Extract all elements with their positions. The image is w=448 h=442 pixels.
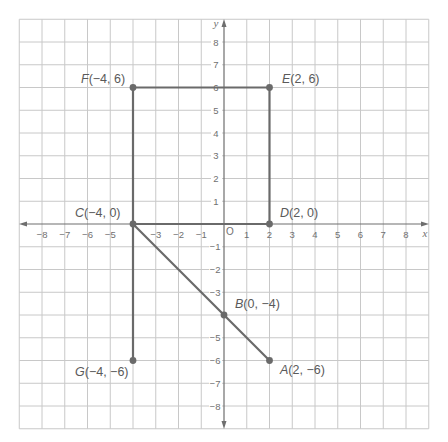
y-axis-up-arrow-icon: [222, 19, 227, 27]
point-G: [130, 357, 137, 364]
point-B: [221, 312, 228, 319]
x-tick-label: 6: [358, 229, 363, 240]
y-tick-label: 2: [213, 173, 218, 184]
y-tick-label: −7: [210, 378, 221, 389]
y-tick-label: −8: [210, 401, 221, 412]
label-D: D(2, 0): [280, 206, 318, 220]
point-labels: F(−4, 6) E(2, 6) C(−4, 0) D(2, 0) B(0, −…: [75, 72, 325, 379]
y-tick-label: −3: [210, 287, 221, 298]
y-tick-label: −6: [210, 355, 221, 366]
origin-label: O: [226, 226, 234, 237]
x-tick-label: 7: [381, 229, 386, 240]
x-tick-label: −3: [150, 229, 161, 240]
label-F: F(−4, 6): [81, 72, 125, 86]
x-tick-label: −6: [82, 229, 93, 240]
y-tick-label: 3: [213, 150, 218, 161]
y-axis-down-arrow-icon: [222, 421, 227, 429]
point-F: [130, 84, 137, 91]
y-tick-label: 4: [213, 128, 218, 139]
y-tick-label: −5: [210, 332, 221, 343]
label-B: B(0, −4): [235, 297, 280, 311]
x-tick-label: 4: [312, 229, 317, 240]
point-A: [266, 357, 273, 364]
x-tick-label: −8: [37, 229, 48, 240]
y-tick-label: 8: [213, 37, 218, 48]
label-G: G(−4, −6): [75, 365, 129, 379]
label-C: C(−4, 0): [75, 206, 121, 220]
x-axis-label: x: [422, 227, 428, 239]
x-tick-label: 8: [403, 229, 408, 240]
y-axis-label: y: [213, 17, 219, 29]
y-tick-label: 7: [213, 59, 218, 70]
label-A: A(2, −6): [279, 363, 325, 377]
x-axis-left-arrow-icon: [19, 222, 27, 227]
coordinate-plane-figure: −8 −7 −6 −5 −3 −2 −1 1 2 3 4 5 6 7 8 x O…: [0, 0, 448, 442]
x-axis-right-arrow-icon: [421, 222, 429, 227]
x-tick-label: 3: [290, 229, 295, 240]
y-tick-label: 5: [213, 105, 218, 116]
coordinate-plane-svg: −8 −7 −6 −5 −3 −2 −1 1 2 3 4 5 6 7 8 x O…: [0, 0, 448, 442]
y-tick-label: −1: [210, 241, 221, 252]
x-tick-label: 1: [244, 229, 249, 240]
x-tick-label: −5: [105, 229, 116, 240]
point-D: [266, 221, 273, 228]
point-E: [266, 84, 273, 91]
y-tick-label: −2: [210, 264, 221, 275]
x-tick-labels: −8 −7 −6 −5 −3 −2 −1 1 2 3 4 5 6 7 8 x O: [37, 226, 428, 240]
label-E: E(2, 6): [282, 72, 320, 86]
x-tick-label: −7: [59, 229, 70, 240]
y-tick-labels: 8 7 6 5 4 3 2 1 −1 −2 −3 −5 −6 −7 −8 y: [209, 17, 222, 412]
x-tick-label: 2: [267, 229, 272, 240]
x-tick-label: −1: [196, 229, 207, 240]
point-C: [130, 221, 137, 228]
y-tick-label: 1: [213, 196, 218, 207]
x-tick-label: −2: [173, 229, 184, 240]
x-tick-label: 5: [335, 229, 340, 240]
